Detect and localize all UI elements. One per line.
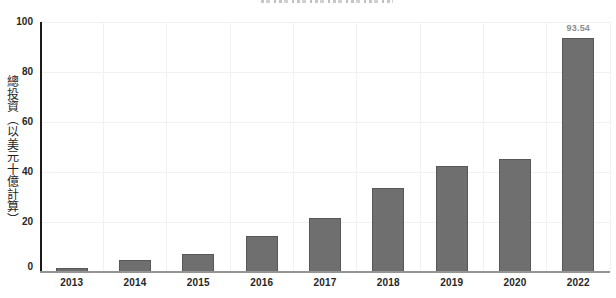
x-tick-label-2019: 2019 bbox=[420, 277, 483, 288]
x-tick-label-2017: 2017 bbox=[293, 277, 356, 288]
y-tick-label-60: 60 bbox=[0, 116, 33, 128]
gridline-x-6 bbox=[420, 22, 421, 272]
plot-area: 93.54 bbox=[40, 22, 610, 272]
y-axis-line bbox=[40, 22, 42, 272]
gridline-y-80 bbox=[40, 72, 610, 73]
x-tick-label-2015: 2015 bbox=[167, 277, 230, 288]
y-tick-label-80: 80 bbox=[0, 66, 33, 78]
gridline-x-7 bbox=[483, 22, 484, 272]
bar-value-label-2022: 93.54 bbox=[547, 23, 610, 33]
x-tick-label-2018: 2018 bbox=[357, 277, 420, 288]
gridline-x-4 bbox=[293, 22, 294, 272]
bar-2020 bbox=[499, 159, 531, 272]
gridline-x-5 bbox=[356, 22, 357, 272]
bar-2016 bbox=[246, 236, 278, 272]
x-tick-label-2014: 2014 bbox=[103, 277, 166, 288]
bar-2017 bbox=[309, 218, 341, 272]
bar-2022 bbox=[562, 38, 594, 272]
x-axis-line bbox=[40, 271, 610, 273]
bar-2019 bbox=[436, 166, 468, 272]
x-tick-labels: 201320142015201620172018201920202022 bbox=[40, 277, 610, 290]
x-tick-label-2016: 2016 bbox=[230, 277, 293, 288]
x-tick-label-2020: 2020 bbox=[483, 277, 546, 288]
x-tick-label-2013: 2013 bbox=[40, 277, 103, 288]
chart-canvas: 總投資（以美元十億計算） 93.54 020406080100 20132014… bbox=[0, 0, 616, 298]
clipped-chart-title bbox=[261, 0, 393, 3]
gridline-x-8 bbox=[546, 22, 547, 272]
y-tick-label-20: 20 bbox=[0, 216, 33, 228]
x-tick-label-2022: 2022 bbox=[547, 277, 610, 288]
gridline-y-60 bbox=[40, 122, 610, 123]
y-tick-label-100: 100 bbox=[0, 16, 33, 28]
y-tick-labels: 020406080100 bbox=[0, 22, 35, 272]
gridline-y-100 bbox=[40, 22, 610, 23]
gridline-x-1 bbox=[103, 22, 104, 272]
gridline-x-3 bbox=[230, 22, 231, 272]
gridline-x-2 bbox=[166, 22, 167, 272]
gridline-x-9 bbox=[610, 22, 611, 272]
y-tick-label-40: 40 bbox=[0, 166, 33, 178]
y-tick-label-0: 0 bbox=[0, 261, 33, 273]
bar-2018 bbox=[372, 188, 404, 272]
bar-2015 bbox=[182, 254, 214, 272]
